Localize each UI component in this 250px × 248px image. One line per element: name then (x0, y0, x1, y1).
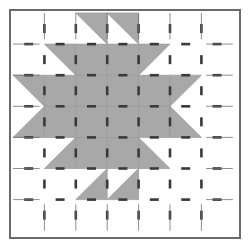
seam-dash-horizontal (56, 105, 65, 108)
patch-square (44, 106, 75, 137)
seam-dash-vertical (43, 180, 46, 189)
seam-dash-vertical (169, 180, 172, 189)
diagram-title: Quilt Block Pattern Diagram (0, 0, 1, 1)
seam-dash-vertical (169, 148, 172, 157)
seam-dash-horizontal (87, 167, 96, 170)
patch-square (107, 106, 138, 137)
patch-triangle-tr (76, 13, 107, 44)
patch-square (107, 137, 138, 168)
seam-dash-horizontal (56, 136, 65, 139)
seam-dash-vertical (43, 148, 46, 157)
seam-dash-horizontal (150, 105, 159, 108)
patch-triangle-br (13, 106, 44, 137)
seam-dash-horizontal (150, 198, 159, 201)
seam-dash-horizontal (181, 198, 190, 201)
seam-dash-vertical (106, 117, 109, 126)
patch-triangle-br (107, 169, 138, 200)
seam-dash-horizontal (150, 43, 159, 46)
seam-dash-horizontal (181, 74, 190, 77)
seam-dash-horizontal (87, 198, 96, 201)
quilt-block-diagram: Quilt Block Pattern Diagram (0, 0, 250, 248)
quilt-patch-grid (11, 11, 243, 241)
patch-square (107, 75, 138, 106)
seam-dash-vertical (106, 180, 109, 189)
patch-triangle-tl (170, 75, 201, 106)
seam-dash-horizontal (150, 136, 159, 139)
seam-dash-horizontal (118, 105, 127, 108)
quilt-patch-canvas (11, 11, 243, 241)
patch-triangle-tl (139, 44, 170, 75)
seam-dash-vertical (137, 148, 140, 157)
patch-triangle-bl (170, 106, 201, 137)
seam-dash-horizontal (118, 136, 127, 139)
seam-dash-horizontal (118, 74, 127, 77)
seam-dash-horizontal (181, 43, 190, 46)
patch-square (44, 75, 75, 106)
seam-dash-horizontal (56, 167, 65, 170)
patch-triangle-br (44, 137, 75, 168)
patch-layer (13, 13, 201, 200)
seam-dash-vertical (137, 55, 140, 64)
seam-dash-horizontal (181, 136, 190, 139)
seam-dash-vertical (43, 86, 46, 95)
seam-dash-vertical (75, 55, 78, 64)
seam-dash-vertical (75, 148, 78, 157)
seam-dash-vertical (75, 180, 78, 189)
seam-dash-vertical (106, 148, 109, 157)
patch-triangle-tr (13, 75, 44, 106)
seam-dash-horizontal (56, 43, 65, 46)
seam-dash-horizontal (118, 167, 127, 170)
seam-dash-horizontal (87, 74, 96, 77)
seam-dash-horizontal (87, 105, 96, 108)
seam-dash-horizontal (87, 136, 96, 139)
patch-triangle-tr (44, 44, 75, 75)
seam-dash-horizontal (150, 167, 159, 170)
seam-dash-vertical (137, 117, 140, 126)
patch-square (76, 106, 107, 137)
seam-dash-vertical (200, 55, 203, 64)
patch-triangle-tr (107, 13, 138, 44)
seam-dash-vertical (106, 55, 109, 64)
seam-dash-horizontal (181, 105, 190, 108)
seam-dash-vertical (75, 86, 78, 95)
seam-dash-vertical (169, 55, 172, 64)
patch-square (139, 75, 170, 106)
patch-square (139, 106, 170, 137)
patch-triangle-br (76, 169, 107, 200)
quilt-outer-frame (9, 9, 241, 239)
seam-dash-vertical (43, 117, 46, 126)
patch-square (76, 75, 107, 106)
seam-dash-vertical (169, 86, 172, 95)
seam-dash-vertical (200, 86, 203, 95)
patch-triangle-bl (139, 137, 170, 168)
seam-dash-horizontal (56, 74, 65, 77)
seam-dash-vertical (75, 117, 78, 126)
patch-square (76, 137, 107, 168)
seam-dash-horizontal (150, 74, 159, 77)
seam-dash-horizontal (118, 198, 127, 201)
seam-dash-vertical (200, 148, 203, 157)
seam-dash-vertical (200, 180, 203, 189)
seam-dash-vertical (169, 117, 172, 126)
seam-dash-horizontal (181, 167, 190, 170)
seam-dash-vertical (137, 180, 140, 189)
seam-dash-horizontal (118, 43, 127, 46)
patch-square (107, 44, 138, 75)
patch-square (76, 44, 107, 75)
seam-dash-vertical (106, 86, 109, 95)
seam-dash-horizontal (87, 43, 96, 46)
seam-dash-vertical (137, 86, 140, 95)
seam-dash-horizontal (56, 198, 65, 201)
seam-dash-vertical (43, 55, 46, 64)
seam-dash-vertical (200, 117, 203, 126)
